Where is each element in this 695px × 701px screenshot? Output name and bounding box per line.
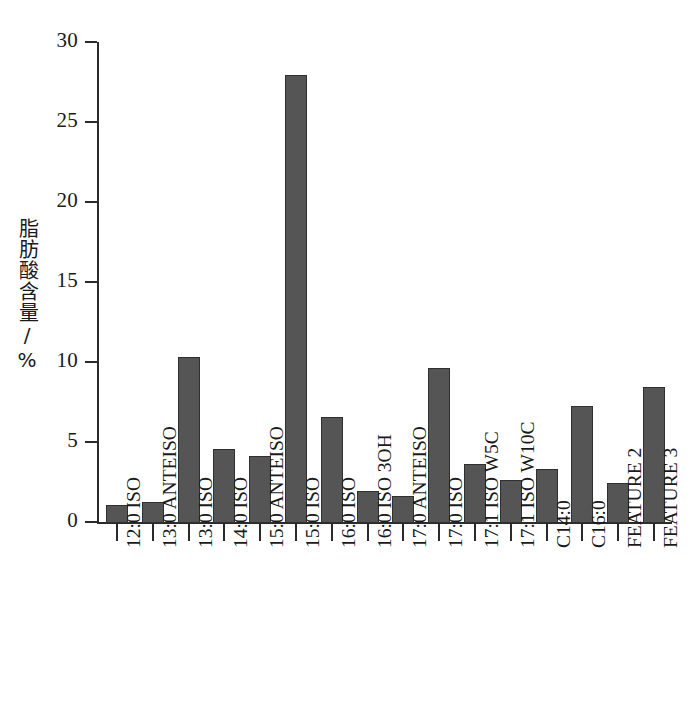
y-axis-tick-label: 0 <box>8 510 78 531</box>
x-axis-tick-mark <box>402 524 404 541</box>
x-axis-label-text: 13:0 ANTEISO <box>160 426 180 548</box>
y-axis-tick-label: 25 <box>8 110 78 131</box>
x-axis-label-text: 17:0 ANTEISO <box>410 426 430 548</box>
x-axis-label-text: 17:1 ISO W10C <box>518 422 538 548</box>
x-axis-tick-mark <box>581 524 583 541</box>
x-axis-label-text: FEATURE 3 <box>661 448 681 548</box>
x-axis-tick-mark <box>438 524 440 541</box>
x-axis-tick-mark <box>295 524 297 541</box>
x-axis-label-text: 15:0 ISO <box>303 477 323 548</box>
x-axis-tick-mark <box>116 524 118 541</box>
fatty-acid-bar-chart: 脂肪酸含量/% 051015202530 12:0 ISO13:0 ANTEIS… <box>0 0 695 701</box>
x-axis-label-text: 13:0 ISO <box>196 477 216 548</box>
x-axis-label-text: 14:0 ISO <box>231 477 251 548</box>
x-axis-label-text: 17:1 ISO W5C <box>482 431 502 548</box>
x-axis-tick-mark <box>367 524 369 541</box>
x-axis-tick-mark <box>188 524 190 541</box>
y-axis-tick-label-text: 15 <box>8 270 78 291</box>
y-axis-tick-label: 20 <box>8 190 78 211</box>
y-axis-tick-mark <box>85 441 97 443</box>
x-axis-label-text: 15:0 ANTEISO <box>267 426 287 548</box>
x-axis-label-text: 16:0 ISO <box>339 477 359 548</box>
x-axis-tick-mark <box>331 524 333 541</box>
y-axis-tick-mark <box>85 41 97 43</box>
x-axis-label-text: 12:0 ISO <box>124 477 144 548</box>
bar <box>285 75 307 523</box>
x-axis-label-text: FEATURE 2 <box>625 448 645 548</box>
y-axis-tick-label-text: 20 <box>8 190 78 211</box>
x-axis-tick-mark <box>617 524 619 541</box>
x-axis-label-text: 16:0 ISO 3OH <box>375 434 395 548</box>
x-axis-tick-mark <box>152 524 154 541</box>
x-axis-tick-mark <box>546 524 548 541</box>
x-axis-tick-mark <box>510 524 512 541</box>
y-axis-tick-label-text: 25 <box>8 110 78 131</box>
x-axis-tick-mark <box>474 524 476 541</box>
y-axis-tick-mark <box>85 521 97 523</box>
y-axis-tick-mark <box>85 121 97 123</box>
x-axis-tick-mark <box>653 524 655 541</box>
y-axis-tick-label-text: 0 <box>8 510 78 531</box>
x-axis-label-text: C16:0 <box>589 500 609 548</box>
y-axis-tick-label: 30 <box>8 30 78 51</box>
y-axis-tick-label-text: 10 <box>8 350 78 371</box>
y-axis-tick-label: 10 <box>8 350 78 371</box>
y-axis-tick-mark <box>85 361 97 363</box>
y-axis-tick-label: 5 <box>8 430 78 451</box>
x-axis-tick-mark <box>223 524 225 541</box>
y-axis-tick-mark <box>85 201 97 203</box>
y-axis-tick-label: 15 <box>8 270 78 291</box>
y-axis-tick-mark <box>85 281 97 283</box>
y-axis-tick-label-text: 5 <box>8 430 78 451</box>
x-axis-tick-mark <box>259 524 261 541</box>
x-axis-label-text: 17:0 ISO <box>446 477 466 548</box>
x-axis-label-text: C14:0 <box>554 500 574 548</box>
y-axis-tick-label-text: 30 <box>8 30 78 51</box>
